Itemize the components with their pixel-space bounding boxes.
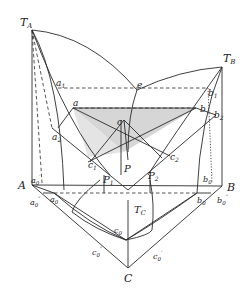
label-e: e	[137, 80, 142, 90]
liquidus-e-TB	[137, 67, 222, 90]
label-c1: c1	[88, 160, 97, 171]
line-b-b2	[196, 108, 216, 115]
label-a1: a1	[56, 78, 65, 89]
label-b1: b1	[208, 88, 218, 99]
label-C: C	[124, 272, 133, 285]
label-b0p: b0′	[203, 172, 214, 185]
label-P: P	[123, 163, 131, 174]
label-c: c	[117, 117, 122, 127]
label-b: b	[200, 104, 206, 114]
label-b0: b0	[197, 196, 206, 206]
label-c0p: c0′	[153, 249, 163, 262]
label-b0pp: b0″	[217, 193, 229, 206]
label-P2: P2	[147, 170, 159, 182]
label-a: a	[73, 98, 78, 108]
ternary-phase-diagram: TA TB TC A B C e a1 a a2 b1 b b2 c c1 c2…	[0, 0, 252, 301]
label-TA: TA	[20, 16, 32, 30]
line-a-a2	[58, 108, 73, 128]
label-TC: TC	[134, 204, 146, 217]
base-B-C	[128, 186, 222, 268]
label-a0p: a0′	[31, 173, 41, 186]
dash-TA-a0p	[32, 30, 42, 183]
base-a0p-a0	[32, 185, 54, 193]
base-A-B	[32, 185, 222, 186]
curve-down-c0p	[150, 180, 153, 230]
label-c2: c2	[170, 152, 179, 163]
base-b0-c0	[126, 193, 197, 240]
label-P1: P1	[102, 174, 114, 186]
label-c0pp: c0″	[92, 245, 103, 258]
label-a0pp: a0″	[30, 195, 41, 208]
label-TB: TB	[223, 52, 236, 66]
label-A: A	[17, 179, 26, 192]
label-c0: c0	[114, 226, 122, 236]
liquidus-TA-e	[32, 30, 137, 90]
